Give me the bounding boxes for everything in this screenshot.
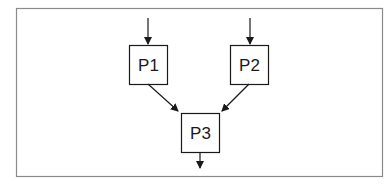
node-p2: P2 bbox=[231, 46, 269, 85]
node-p1-label: P1 bbox=[138, 56, 159, 75]
node-p3: P3 bbox=[182, 114, 220, 153]
arrow-p2-to-p3 bbox=[222, 84, 249, 111]
process-diagram: P1 P2 P3 bbox=[0, 0, 391, 187]
node-p1: P1 bbox=[130, 46, 168, 85]
node-p2-label: P2 bbox=[239, 56, 260, 75]
arrow-p1-to-p3 bbox=[148, 84, 178, 111]
node-p3-label: P3 bbox=[190, 124, 211, 143]
